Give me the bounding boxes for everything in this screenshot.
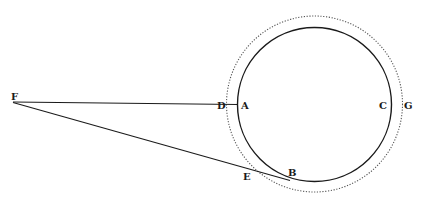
line-FA <box>13 102 238 105</box>
label-B: B <box>288 167 296 178</box>
label-A: A <box>240 100 249 111</box>
line-FB <box>13 103 290 181</box>
inner-solid-circle <box>238 28 392 182</box>
label-C: C <box>379 100 387 111</box>
label-E: E <box>243 171 251 182</box>
diagram-canvas: F D A C G E B <box>0 0 422 201</box>
label-F: F <box>11 91 18 102</box>
geometry-figure: F D A C G E B <box>0 0 422 201</box>
label-D: D <box>217 100 226 111</box>
outer-dotted-circle <box>227 16 403 192</box>
label-G: G <box>404 100 413 111</box>
